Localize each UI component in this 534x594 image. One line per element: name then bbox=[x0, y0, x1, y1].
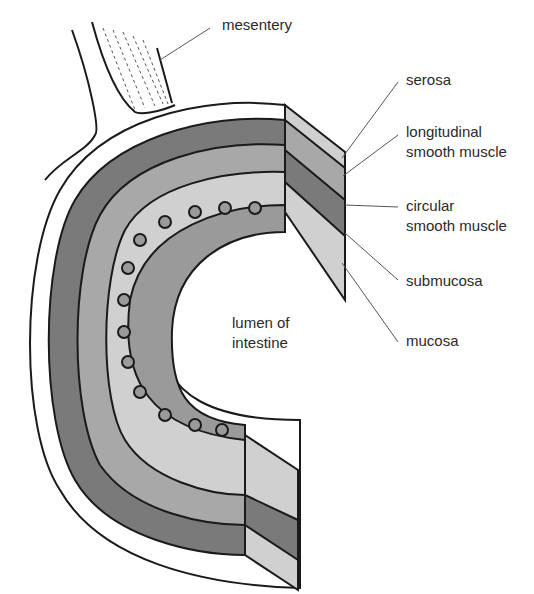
label-longitudinal-2: smooth muscle bbox=[406, 142, 507, 161]
label-circular-2: smooth muscle bbox=[406, 216, 507, 235]
label-mucosa: mucosa bbox=[406, 331, 459, 350]
label-lumen: lumen of bbox=[232, 313, 290, 332]
intestine-wall-diagram bbox=[0, 0, 534, 594]
label-circular: circular bbox=[406, 196, 454, 215]
label-submucosa: submucosa bbox=[406, 271, 483, 290]
label-longitudinal: longitudinal bbox=[406, 122, 482, 141]
label-mesentery: mesentery bbox=[222, 15, 292, 34]
label-lumen-2: intestine bbox=[232, 333, 288, 352]
label-serosa: serosa bbox=[406, 70, 451, 89]
